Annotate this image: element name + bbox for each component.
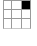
grid-cell-r2c0[interactable]: [3, 19, 12, 29]
grid-cell-r0c2-selected[interactable]: [22, 0, 31, 10]
grid-selector[interactable]: [3, 0, 31, 29]
grid-cell-r2c1[interactable]: [12, 19, 21, 29]
grid-cell-r0c1[interactable]: [12, 0, 21, 10]
grid-cell-r0c0[interactable]: [3, 0, 12, 10]
grid-cell-r1c0[interactable]: [3, 10, 12, 20]
grid-cell-r1c1[interactable]: [12, 10, 21, 20]
grid-cell-r2c2[interactable]: [22, 19, 31, 29]
grid-cell-r1c2[interactable]: [22, 10, 31, 20]
icon-canvas: [0, 0, 37, 46]
empty-area-below-grid: [0, 29, 37, 46]
